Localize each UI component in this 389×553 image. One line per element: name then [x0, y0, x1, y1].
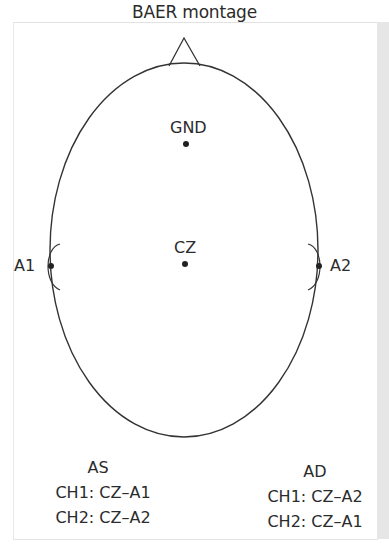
legend-as-heading: AS	[18, 455, 178, 480]
a2-electrode-dot	[316, 263, 322, 269]
legend-ad: AD CH1: CZ–A2 CH2: CZ–A1	[250, 459, 380, 534]
legend-as: AS CH1: CZ–A1 CH2: CZ–A2	[28, 455, 178, 530]
legend-ad-ch2: CH2: CZ–A1	[250, 509, 380, 534]
a1-label: A1	[14, 256, 35, 275]
gnd-electrode-dot	[183, 141, 189, 147]
nose-icon	[169, 38, 200, 66]
cz-electrode-dot	[182, 261, 188, 267]
legend-as-ch1: CH1: CZ–A1	[28, 480, 178, 505]
diagram-title: BAER montage	[0, 2, 389, 22]
legend-as-ch2: CH2: CZ–A2	[28, 505, 178, 530]
a2-label: A2	[330, 256, 351, 275]
legend-ad-heading: AD	[250, 459, 380, 484]
cz-label: CZ	[174, 238, 196, 257]
legend-ad-ch1: CH1: CZ–A2	[250, 484, 380, 509]
a1-electrode-dot	[48, 263, 54, 269]
gnd-label: GND	[170, 118, 207, 137]
